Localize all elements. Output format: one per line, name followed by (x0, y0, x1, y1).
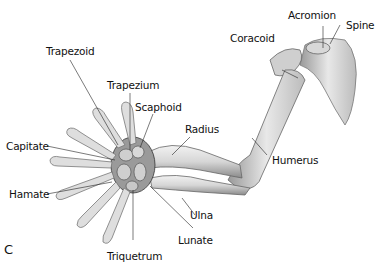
panel-letter: C (4, 242, 13, 257)
label-ulna: Ulna (190, 210, 213, 221)
label-triquetrum: Triquetrum (107, 251, 162, 262)
forearm-bones (148, 145, 250, 195)
label-coracoid: Coracoid (230, 33, 275, 44)
label-humerus: Humerus (272, 155, 318, 166)
label-trapezoid: Trapezoid (46, 46, 94, 57)
label-hamate: Hamate (9, 189, 49, 200)
label-spine: Spine (346, 20, 374, 31)
label-scaphoid: Scaphoid (135, 102, 182, 113)
anatomy-diagram: Trapezoid Trapezium Scaphoid Radius Cora… (0, 0, 385, 267)
label-capitate: Capitate (6, 141, 49, 152)
label-radius: Radius (185, 124, 219, 135)
label-acromion: Acromion (288, 10, 336, 21)
label-lunate: Lunate (178, 235, 213, 246)
label-trapezium: Trapezium (107, 80, 159, 91)
